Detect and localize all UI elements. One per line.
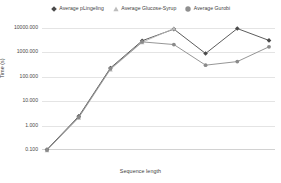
y-tick-label: 1.000 (0, 123, 38, 128)
data-point-marker (235, 60, 239, 64)
legend-label-glucose-syrup: Average Glucose-Syrup (121, 6, 176, 11)
data-point-marker (172, 43, 176, 47)
data-point-marker (45, 148, 49, 152)
legend-label-gurobi: Average Gurobi (194, 6, 230, 11)
data-point-marker (267, 45, 271, 49)
y-tick-label: 1000.000 (0, 50, 38, 55)
series-line (47, 42, 269, 150)
series-line (47, 29, 174, 151)
x-axis-title: Sequence length (0, 168, 281, 174)
legend-item-plingeling: Average pLingeling (51, 6, 104, 12)
y-tick-label: 0.100 (0, 147, 38, 152)
y-tick-label: 10.000 (0, 99, 38, 104)
legend-item-glucose-syrup: Average Glucose-Syrup (113, 6, 177, 12)
data-point-marker (109, 67, 113, 71)
data-point-marker (267, 38, 272, 43)
y-axis-title: Time (s) (0, 58, 5, 78)
data-point-marker (77, 115, 81, 119)
data-point-marker (172, 26, 177, 30)
diamond-marker-icon (51, 6, 57, 12)
circle-marker-icon (185, 6, 191, 12)
line-chart: Average pLingeling Average Glucose-Syrup… (0, 0, 281, 183)
legend-item-gurobi: Average Gurobi (185, 6, 230, 12)
data-point-marker (204, 63, 208, 67)
plot-area (42, 28, 275, 150)
chart-legend: Average pLingeling Average Glucose-Syrup… (0, 6, 281, 12)
y-tick-label: 10000.000 (0, 25, 38, 30)
y-tick-label: 100.000 (0, 74, 38, 79)
series-line (47, 29, 269, 150)
data-point-marker (140, 40, 144, 44)
legend-label-plingeling: Average pLingeling (59, 6, 103, 11)
series-layer (42, 28, 275, 150)
triangle-marker-icon (113, 6, 119, 12)
